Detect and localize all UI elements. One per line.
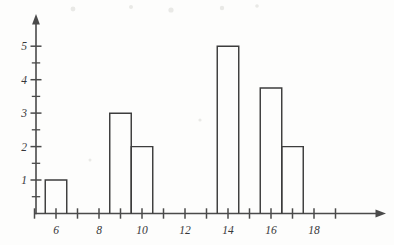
x-axis [35,210,386,218]
x-tick-label-16: 16 [265,224,277,236]
histogram-bar [282,147,304,214]
x-tick-label-12: 12 [179,224,191,236]
histogram-canvas: 5 4 3 2 1 6 8 10 12 [0,0,394,245]
y-axis-arrow-icon [32,14,40,25]
x-tick-label-14: 14 [222,224,234,236]
histogram-bar [131,147,153,214]
x-axis-arrow-icon [376,210,387,218]
histogram-bar [110,113,132,213]
x-tick-label-8: 8 [96,224,102,236]
y-tick-label-5: 5 [21,40,27,52]
x-tick-label-6: 6 [53,224,59,236]
y-tick-label-2: 2 [21,141,27,153]
y-tick-label-3: 3 [20,107,27,119]
y-tick-label-1: 1 [21,174,27,186]
y-axis-tick-labels: 5 4 3 2 1 [20,40,27,186]
x-tick-label-18: 18 [308,224,320,236]
x-tick-label-10: 10 [136,224,148,236]
histogram-bar [260,88,282,213]
y-tick-label-4: 4 [21,74,27,86]
histogram-bar [217,46,239,213]
x-axis-tick-labels: 6 8 10 12 14 16 18 [53,224,320,236]
histogram-figure: 5 4 3 2 1 6 8 10 12 [0,0,394,245]
histogram-bars [45,46,303,213]
scan-specks [71,4,259,161]
